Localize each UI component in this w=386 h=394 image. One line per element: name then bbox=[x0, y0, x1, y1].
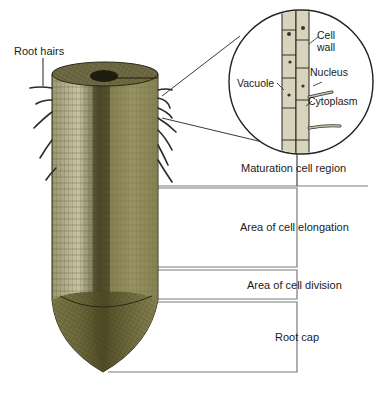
label-cytoplasm: Cytoplasm bbox=[308, 95, 358, 107]
root-body bbox=[52, 62, 158, 372]
label-cell-wall-line1: Cell bbox=[317, 29, 335, 41]
label-cell-division: Area of cell division bbox=[247, 279, 342, 291]
root-tip-diagram bbox=[0, 0, 386, 394]
label-root-hairs: Root hairs bbox=[14, 45, 64, 57]
label-cell-elongation: Area of cell elongation bbox=[240, 221, 349, 233]
label-cell-wall-line2: wall bbox=[317, 41, 335, 53]
label-cell-wall: Cell wall bbox=[317, 29, 335, 53]
label-root-cap: Root cap bbox=[275, 331, 319, 343]
label-maturation-region: Maturation cell region bbox=[241, 162, 346, 174]
label-nucleus: Nucleus bbox=[310, 66, 348, 78]
label-vacuole: Vacuole bbox=[237, 77, 274, 89]
